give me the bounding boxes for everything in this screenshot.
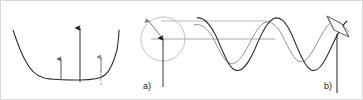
wave-secondary (194, 21, 349, 63)
profile-curve (13, 30, 119, 80)
technical-figure: a) b) (0, 0, 363, 100)
arrow-diagonal-upleft (148, 20, 163, 39)
wave-primary (197, 18, 347, 71)
panel-b-waves: b) (194, 16, 349, 93)
panel-b-label: b) (324, 81, 332, 91)
figure-canvas: a) b) (1, 1, 363, 100)
panel-a-vectors: a) (141, 17, 275, 91)
panel-left-profile (13, 28, 119, 85)
panel-a-label: a) (143, 81, 151, 91)
